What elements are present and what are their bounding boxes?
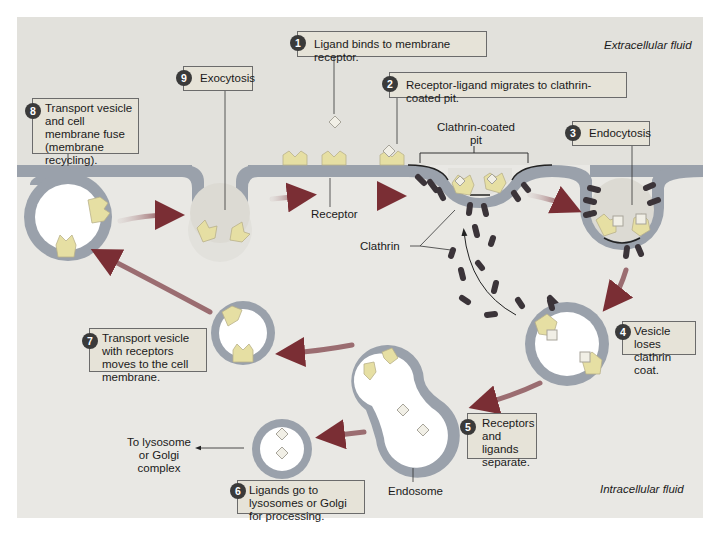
intracellular-fluid-label: Intracellular fluid: [600, 483, 684, 496]
step-4-box: 4 Vesicle loses clathrin coat.: [622, 321, 696, 355]
endosome-label: Endosome: [388, 485, 443, 498]
clathrin-label: Clathrin: [360, 240, 400, 253]
step-number-4: 4: [615, 324, 631, 340]
clathrin-coated-pit-label: Clathrin-coated pit: [436, 121, 516, 147]
step-8-box: 8 Transport vesicle and cell membrane fu…: [32, 98, 139, 154]
lysosome-golgi-label: To lysosome or Golgi complex: [123, 436, 195, 475]
uncoating-vesicle: [525, 302, 609, 386]
step-6-box: 6 Ligands go to lysosomes or Golgi for p…: [237, 480, 365, 514]
step-9-box: 9 Exocytosis: [183, 66, 253, 91]
step-number-1: 1: [290, 35, 306, 51]
step-9-text: Exocytosis: [200, 72, 255, 84]
extracellular-fluid-label: Extracellular fluid: [604, 39, 692, 52]
step-2-box: 2 Receptor-ligand migrates to clathrin-c…: [389, 72, 627, 98]
step-number-9: 9: [176, 70, 192, 86]
step-5-text: Receptors and ligands separate.: [482, 417, 534, 468]
step-number-2: 2: [382, 76, 398, 92]
step-number-5: 5: [460, 419, 476, 435]
step-1-box: 1 Ligand binds to membrane receptor.: [297, 31, 487, 57]
receptor-label: Receptor: [311, 208, 358, 221]
step-number-6: 6: [230, 483, 246, 499]
exocytosis-pocket: [182, 165, 258, 262]
step-7-box: 7 Transport vesicle with receptors moves…: [89, 328, 207, 372]
step-3-text: Endocytosis: [589, 127, 651, 139]
transport-vesicle: [211, 301, 275, 365]
step-number-8: 8: [25, 103, 41, 119]
step-3-box: 3 Endocytosis: [572, 121, 650, 146]
step-5-box: 5 Receptors and ligands separate.: [467, 413, 537, 459]
step-number-7: 7: [82, 333, 98, 349]
step-number-3: 3: [565, 125, 581, 141]
